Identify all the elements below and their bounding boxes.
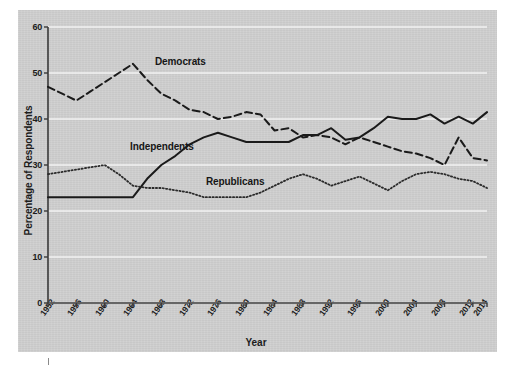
axis-ticks bbox=[44, 27, 487, 307]
data-series-paths bbox=[48, 64, 487, 197]
chart-figure: Percentage of Respondents Year 60 50 40 … bbox=[0, 0, 512, 370]
chart-plot-area bbox=[0, 0, 512, 370]
series-line-democrats bbox=[48, 64, 487, 165]
gridlines bbox=[48, 27, 487, 303]
series-line-republicans bbox=[48, 165, 487, 197]
